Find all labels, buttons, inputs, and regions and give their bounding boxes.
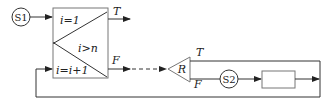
start-node-label: S1 [14, 12, 27, 23]
decision-true-label: T [196, 46, 205, 59]
true-output-label: T [113, 5, 122, 18]
loop-increment-label: i=i+1 [56, 64, 88, 77]
false-output-label: F [111, 54, 120, 67]
second-node-label: S2 [222, 74, 235, 85]
loop-box: i=1 i>n i=i+1 [53, 8, 108, 78]
loop-init-label: i=1 [60, 14, 80, 27]
start-node-s1: S1 [12, 8, 30, 26]
decision-node-r: R [168, 57, 190, 82]
decision-false-label: F [193, 78, 202, 91]
decision-label: R [177, 63, 186, 76]
second-node-s2: S2 [220, 70, 238, 88]
flowchart-diagram: S1 i=1 i>n i=i+1 T F R T F S2 [0, 0, 331, 105]
loop-condition-label: i>n [78, 42, 98, 55]
process-box [262, 71, 295, 88]
